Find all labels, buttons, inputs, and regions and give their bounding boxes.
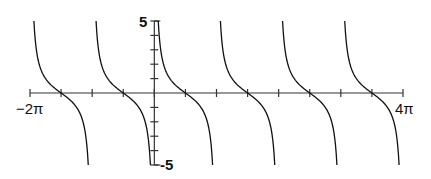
axes [30,21,403,165]
x-min-label: −2π [16,101,43,116]
y-min-label: -5 [160,157,173,172]
cotangent-plot [0,0,431,179]
x-max-label: 4π [395,101,414,116]
y-max-label: 5 [139,14,147,29]
